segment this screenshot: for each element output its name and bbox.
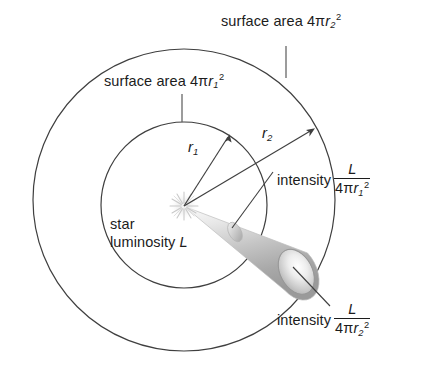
- surface-area-outer-subscript: 2: [330, 20, 335, 30]
- intensity-outer-den-subscript: 2: [358, 327, 363, 337]
- radius-r1-subscript: 1: [193, 146, 198, 157]
- label-intensity-inner: intensity L 4πr12: [277, 163, 370, 198]
- diagram-canvas: surface area 4πr22 surface area 4πr12 r1…: [0, 0, 432, 380]
- intensity-inner-denominator: 4πr12: [334, 180, 370, 198]
- intensity-inner-numerator: L: [334, 162, 370, 177]
- label-star: star: [110, 216, 135, 233]
- intensity-outer-denominator: 4πr22: [334, 320, 370, 338]
- intensity-outer-fraction: L 4πr22: [334, 302, 370, 337]
- luminosity-symbol: L: [180, 234, 188, 250]
- surface-area-inner-prefix: surface area 4π: [104, 73, 208, 89]
- label-star-luminosity: luminosity L: [110, 234, 188, 251]
- intensity-inner-den-subscript: 1: [358, 187, 363, 197]
- radius-r2-subscript: 2: [267, 132, 272, 143]
- intensity-inner-word: intensity: [277, 172, 331, 189]
- label-radius-r1: r1: [188, 138, 199, 157]
- label-intensity-outer: intensity L 4πr22: [277, 303, 370, 338]
- intensity-inner-fraction: L 4πr12: [334, 162, 370, 197]
- intensity-outer-den-superscript: 2: [364, 320, 369, 330]
- intensity-inner-den-prefix: 4π: [335, 180, 353, 196]
- surface-area-outer-superscript: 2: [336, 12, 341, 22]
- intensity-outer-numerator: L: [334, 302, 370, 317]
- surface-area-inner-subscript: 1: [213, 80, 218, 90]
- intensity-outer-den-prefix: 4π: [335, 320, 353, 336]
- label-radius-r2: r2: [262, 124, 273, 143]
- luminosity-prefix: luminosity: [110, 234, 180, 250]
- intensity-inner-den-superscript: 2: [364, 180, 369, 190]
- fraction-bar: [334, 178, 370, 179]
- surface-area-outer-prefix: surface area 4π: [221, 13, 325, 29]
- label-surface-area-outer: surface area 4πr22: [221, 12, 341, 31]
- label-surface-area-inner: surface area 4πr12: [104, 72, 224, 91]
- light-cone: [185, 207, 322, 301]
- fraction-bar: [334, 318, 370, 319]
- surface-area-inner-superscript: 2: [219, 72, 224, 82]
- intensity-outer-word: intensity: [277, 312, 331, 329]
